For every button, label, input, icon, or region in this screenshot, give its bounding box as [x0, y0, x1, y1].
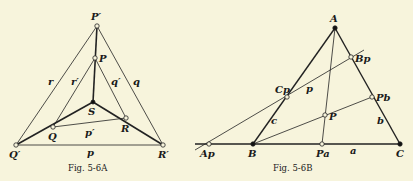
label-line-q-prime: q′: [111, 76, 121, 87]
label-r-prime: R′: [157, 149, 169, 160]
label-line-r-prime: r′: [71, 76, 79, 87]
label-b: B: [247, 148, 256, 159]
line-sp: [93, 26, 97, 102]
line-c: [253, 28, 335, 144]
label-p-prime: P′: [90, 11, 102, 22]
label-line-r: r: [48, 76, 54, 87]
point-p: [323, 113, 327, 117]
figure-5-6b-points: [207, 26, 402, 146]
point-cp: [285, 95, 289, 99]
point-a: [333, 26, 337, 30]
label-pa: Pa: [315, 148, 330, 159]
label-pb: Pb: [375, 92, 391, 103]
label-line-a: a: [350, 145, 356, 156]
label-p: P: [328, 111, 337, 122]
figure-5-6b-labels: A Bp Cp Pb P Ap B Pa C p c b a: [199, 13, 404, 159]
line-p-prime: [53, 118, 126, 127]
diagram-canvas: P′ P S Q R Q′ R′ r r′ q′ q p′ p Fig. 5-6…: [0, 0, 413, 181]
point-pb: [370, 95, 374, 99]
figure-5-6b: [195, 28, 402, 150]
point-q: [51, 125, 55, 129]
point-pa: [320, 142, 324, 146]
label-p: P: [98, 53, 107, 64]
line-q: [97, 26, 163, 145]
point-r-prime: [161, 143, 165, 147]
label-bp: Bp: [354, 53, 370, 64]
label-q: Q: [48, 131, 57, 142]
caption-fig-5-6b: Fig. 5-6B: [273, 163, 312, 173]
label-line-p: p: [87, 147, 94, 158]
label-line-p: p: [306, 83, 313, 94]
line-q-prime: [95, 58, 126, 118]
line-a-pa: [322, 28, 335, 144]
label-ap: Ap: [199, 148, 215, 159]
label-line-q: q: [133, 76, 140, 87]
point-p-prime: [95, 24, 99, 28]
figure-5-6a-labels: P′ P S Q R Q′ R′ r r′ q′ q p′ p: [9, 11, 169, 160]
label-line-p-prime: p′: [85, 127, 95, 138]
point-p: [93, 56, 97, 60]
point-c: [398, 142, 402, 146]
point-q-prime: [14, 143, 18, 147]
label-cp: Cp: [275, 84, 290, 95]
line-p: [195, 50, 364, 150]
label-c: C: [396, 148, 404, 159]
point-b: [251, 142, 255, 146]
point-s: [91, 100, 95, 104]
caption-fig-5-6a: Fig. 5-6A: [68, 163, 108, 173]
point-bp: [349, 55, 353, 59]
label-line-b: b: [377, 115, 384, 126]
label-line-c: c: [271, 115, 277, 126]
point-ap: [207, 142, 211, 146]
label-q-prime: Q′: [9, 149, 21, 160]
line-b: [335, 28, 400, 144]
label-a: A: [329, 13, 338, 24]
point-r: [124, 116, 128, 120]
label-s: S: [88, 106, 95, 117]
label-r: R: [120, 123, 129, 134]
